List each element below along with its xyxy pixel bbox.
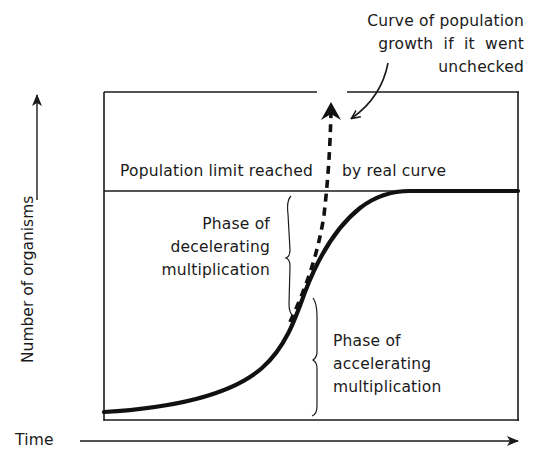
unchecked-label-line1: Curve of population (352, 10, 524, 33)
decelerating-label: Phase of decelerating multiplication (150, 213, 270, 282)
accelerating-label-line3: multiplication (333, 376, 473, 399)
decelerating-label-line1: Phase of (150, 213, 270, 236)
accelerating-label: Phase of accelerating multiplication (333, 330, 473, 399)
decelerating-label-line2: decelerating (150, 236, 270, 259)
unchecked-label: Curve of population growth if it went un… (352, 10, 524, 79)
unchecked-curve (290, 112, 331, 322)
decelerating-label-line3: multiplication (150, 259, 270, 282)
limit-label-left: Population limit reached (120, 160, 313, 183)
accelerating-brace (312, 298, 317, 416)
unchecked-label-line2: growth if it went (352, 33, 524, 56)
x-axis-label: Time (15, 429, 54, 452)
limit-label-right: by real curve (342, 160, 446, 183)
accelerating-label-line2: accelerating (333, 353, 473, 376)
decelerating-brace (286, 196, 294, 317)
y-axis-label: Number of organisms (19, 203, 37, 363)
unchecked-label-line3: unchecked (352, 56, 524, 79)
accelerating-label-line1: Phase of (333, 330, 473, 353)
